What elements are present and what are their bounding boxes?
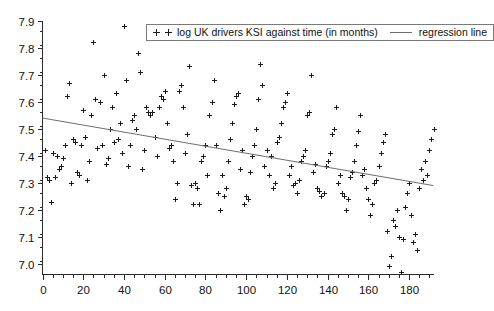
data-point-marker [395, 208, 399, 212]
data-point-marker [281, 105, 285, 109]
data-point-marker [220, 173, 224, 177]
data-point-marker [256, 97, 260, 101]
x-tick-label: 160 [359, 284, 378, 296]
data-point-marker [95, 146, 99, 150]
data-point-marker [51, 151, 55, 155]
data-point-marker [230, 121, 234, 125]
data-point-marker [232, 102, 236, 106]
data-point-marker [358, 113, 362, 117]
data-point-marker [385, 229, 389, 233]
x-tick-label: 180 [400, 284, 419, 296]
data-point-marker [413, 232, 417, 236]
data-point-marker [336, 181, 340, 185]
data-point-marker [218, 208, 222, 212]
data-point-marker [61, 156, 65, 160]
data-point-marker [104, 162, 108, 166]
data-point-marker [55, 154, 59, 158]
y-tick-label: 7.4 [19, 151, 36, 163]
regression-line-path [43, 118, 434, 186]
data-point-marker [91, 40, 95, 44]
data-point-marker [114, 91, 118, 95]
data-point-marker [391, 218, 395, 222]
legend-entry-regression: regression line [378, 24, 487, 41]
data-point-marker [224, 186, 228, 190]
y-axis [38, 21, 43, 275]
data-point-marker [85, 178, 89, 182]
data-point-marker [179, 83, 183, 87]
data-point-marker [295, 191, 299, 195]
data-point-marker [258, 62, 262, 66]
data-point-marker [49, 200, 53, 204]
data-point-marker [427, 148, 431, 152]
data-point-marker [356, 129, 360, 133]
x-tick-label: 20 [77, 284, 90, 296]
data-point-marker [81, 108, 85, 112]
chart-legend: log UK drivers KSI against time (in mont… [146, 24, 494, 41]
data-point-marker [83, 135, 87, 139]
data-point-marker [238, 167, 242, 171]
data-point-marker [387, 264, 391, 268]
data-point-marker [287, 173, 291, 177]
data-point-marker [157, 105, 161, 109]
data-point-marker [126, 164, 130, 168]
data-point-marker [130, 118, 134, 122]
data-point-marker [100, 143, 104, 147]
data-point-marker [403, 205, 407, 209]
data-point-marker [338, 173, 342, 177]
data-point-marker [155, 154, 159, 158]
data-point-marker [122, 24, 126, 28]
data-point-marker [138, 70, 142, 74]
data-point-marker [319, 194, 323, 198]
data-point-marker [279, 121, 283, 125]
data-point-marker [429, 137, 433, 141]
data-point-marker [187, 64, 191, 68]
data-point-marker [210, 100, 214, 104]
data-point-marker [401, 237, 405, 241]
data-point-marker [332, 127, 336, 131]
legend-label-scatter: log UK drivers KSI against time (in mont… [177, 24, 378, 41]
data-point-marker [254, 127, 258, 131]
data-point-marker [432, 127, 436, 131]
x-tick-label: 120 [278, 284, 297, 296]
data-point-marker [144, 105, 148, 109]
data-point-marker [248, 170, 252, 174]
data-point-marker [377, 164, 381, 168]
y-tick-label: 7.8 [19, 43, 35, 55]
legend-label-regression: regression line [419, 24, 487, 41]
data-point-marker [262, 164, 266, 168]
data-point-marker [226, 159, 230, 163]
y-tick-label: 7.7 [19, 70, 35, 82]
data-point-marker [265, 148, 269, 152]
data-point-marker [128, 143, 132, 147]
data-point-marker [171, 159, 175, 163]
legend-entry-scatter: log UK drivers KSI against time (in mont… [153, 24, 378, 41]
data-point-marker [181, 105, 185, 109]
y-tick-label: 7.9 [19, 16, 35, 28]
data-point-marker [283, 100, 287, 104]
data-point-marker [334, 105, 338, 109]
data-point-marker [344, 208, 348, 212]
data-point-marker [134, 127, 138, 131]
y-tick-label: 7.5 [19, 124, 35, 136]
data-point-marker [163, 89, 167, 93]
data-point-marker [252, 143, 256, 147]
data-point-marker [63, 143, 67, 147]
data-point-marker [267, 173, 271, 177]
x-tick-label: 0 [40, 284, 46, 296]
data-point-marker [165, 121, 169, 125]
data-point-marker [177, 89, 181, 93]
data-point-marker [140, 167, 144, 171]
y-tick-label: 7.1 [19, 232, 35, 244]
data-point-marker [379, 151, 383, 155]
data-point-marker [189, 183, 193, 187]
data-point-marker [112, 140, 116, 144]
data-point-marker [175, 181, 179, 185]
y-tick-labels: 7.07.17.27.37.47.57.67.77.87.9 [19, 16, 36, 271]
data-point-marker [383, 132, 387, 136]
plus-marker-icon [165, 29, 172, 36]
data-point-marker [421, 178, 425, 182]
data-point-marker [89, 113, 93, 117]
data-point-marker [389, 254, 393, 258]
data-point-marker [199, 159, 203, 163]
data-point-marker [352, 159, 356, 163]
